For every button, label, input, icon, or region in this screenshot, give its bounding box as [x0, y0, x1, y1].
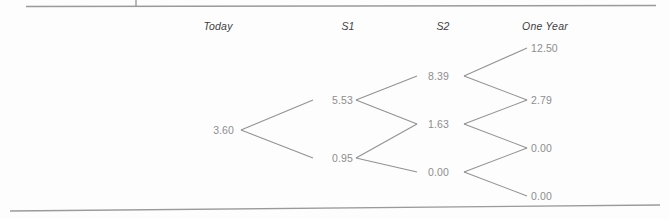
tree-edge-n2ud-to-n3c	[464, 124, 527, 148]
tree-edge-n1d-to-n2ud	[356, 124, 417, 158]
node-value-n3d: 0.00	[531, 190, 552, 202]
tree-edge-n0-to-n1u	[241, 100, 313, 130]
bottom-rule	[10, 205, 660, 211]
node-value-n1u: 5.53	[332, 94, 353, 106]
node-value-n0: 3.60	[213, 124, 234, 136]
node-value-n2ud: 1.63	[428, 118, 449, 130]
tree-edge-n2dd-to-n3c	[464, 148, 527, 172]
tree-edge-n1u-to-n2ud	[356, 100, 417, 124]
tree-edge-n2dd-to-n3d	[464, 172, 527, 196]
node-value-n1d: 0.95	[332, 152, 353, 164]
column-header-s1: S1	[341, 20, 354, 32]
tree-edge-n2ud-to-n3b	[464, 100, 527, 124]
column-header-s2: S2	[436, 20, 449, 32]
tree-edge-n0-to-n1d	[241, 130, 313, 158]
node-value-n3c: 0.00	[531, 142, 552, 154]
top-rule	[26, 6, 656, 7]
tree-edge-n1d-to-n2dd	[356, 158, 417, 172]
column-header-today: Today	[203, 20, 232, 32]
edge-layer	[241, 48, 527, 196]
node-value-n3b: 2.79	[531, 94, 552, 106]
column-header-one-year: One Year	[522, 20, 568, 32]
tree-edge-n2uu-to-n3b	[464, 76, 527, 100]
node-value-n2dd: 0.00	[428, 166, 449, 178]
tree-graphics	[0, 0, 669, 219]
node-value-n2uu: 8.39	[428, 70, 449, 82]
binomial-tree-figure: TodayS1S2One Year 3.605.530.958.391.630.…	[0, 0, 669, 219]
node-value-n3a: 12.50	[531, 42, 558, 54]
tree-edge-n2uu-to-n3a	[464, 48, 527, 76]
tree-edge-n1u-to-n2uu	[356, 76, 417, 100]
